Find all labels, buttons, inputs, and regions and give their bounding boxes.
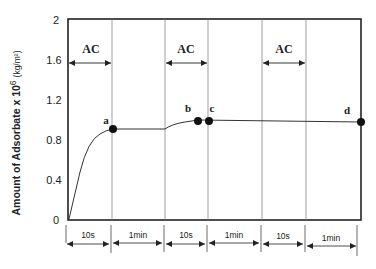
label-a: a	[103, 114, 109, 126]
time-segment-labels: 10s 1min 10s 1min 10s 1min	[81, 230, 340, 243]
y-tick-2: 2	[53, 14, 59, 26]
label-b: b	[185, 102, 191, 114]
y-tick-1.6: 1.6	[46, 54, 61, 66]
y-tick-labels: 0 0.4 0.8 1.2 1.6 2	[46, 14, 61, 226]
adsorbate-curve	[69, 120, 361, 219]
time-segment-arrows	[67, 243, 356, 246]
point-a	[109, 125, 117, 133]
y-tick-1.2: 1.2	[46, 94, 61, 106]
y-axis-label: Amount of Adsorbate x 106(kg/m²)	[8, 50, 22, 215]
segment-label-4: 1min	[225, 230, 244, 240]
segment-label-3: 10s	[179, 230, 193, 240]
point-d	[357, 118, 365, 126]
label-c: c	[210, 102, 215, 114]
segment-label-1: 10s	[81, 230, 95, 240]
y-tick-0: 0	[53, 214, 59, 226]
ac-label-2: AC	[177, 42, 194, 56]
y-tick-0.4: 0.4	[46, 174, 61, 186]
segment-label-2: 1min	[129, 230, 148, 240]
ac-annotations: AC AC AC	[69, 42, 305, 63]
label-d: d	[344, 104, 350, 116]
adsorbate-chart: Amount of Adsorbate x 106(kg/m²) 0 0.4 0…	[0, 0, 376, 269]
segment-label-6: 1min	[322, 233, 341, 243]
time-segment-ticks	[66, 225, 357, 256]
svg-text:Amount of Adsorbate x 106(kg/m: Amount of Adsorbate x 106(kg/m²)	[8, 50, 22, 215]
y-tick-0.8: 0.8	[46, 134, 61, 146]
segment-label-5: 10s	[276, 231, 290, 241]
point-b	[194, 117, 202, 125]
ac-label-1: AC	[82, 42, 99, 56]
ac-label-3: AC	[275, 42, 292, 56]
point-labels: a b c d	[103, 102, 350, 126]
data-points	[109, 117, 365, 133]
point-c	[205, 117, 213, 125]
